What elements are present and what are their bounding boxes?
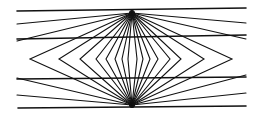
top-ray-line bbox=[132, 13, 246, 23]
horizontal-line bbox=[18, 106, 246, 108]
bottom-ray-line bbox=[132, 75, 246, 105]
bottom-ray-line bbox=[17, 95, 132, 105]
horizontal-line bbox=[17, 35, 246, 39]
bottom-ray-line bbox=[17, 78, 132, 105]
horizontal-line bbox=[17, 77, 246, 79]
diamond-lines bbox=[30, 13, 232, 105]
bottom-ray-line bbox=[132, 93, 246, 105]
diamond-line bbox=[132, 13, 137, 105]
illusion-figure bbox=[0, 0, 265, 120]
top-ray-line bbox=[17, 13, 132, 24]
